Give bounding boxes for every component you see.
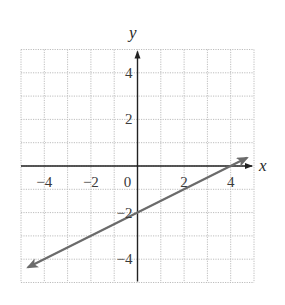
coordinate-plane: −4−202442−2−4 x y bbox=[0, 0, 285, 305]
x-tick-label: −2 bbox=[83, 174, 99, 190]
y-tick-label: −2 bbox=[117, 205, 133, 221]
axes bbox=[21, 52, 252, 282]
x-axis-label: x bbox=[258, 156, 267, 175]
x-tick-label: 4 bbox=[227, 174, 235, 190]
y-tick-label: 2 bbox=[125, 111, 133, 127]
x-tick-label: −4 bbox=[36, 174, 52, 190]
y-axis-label: y bbox=[127, 23, 137, 42]
x-tick-label: 2 bbox=[180, 174, 188, 190]
x-tick-label: 0 bbox=[124, 174, 132, 190]
y-tick-label: −4 bbox=[117, 251, 133, 267]
y-tick-label: 4 bbox=[125, 65, 133, 81]
